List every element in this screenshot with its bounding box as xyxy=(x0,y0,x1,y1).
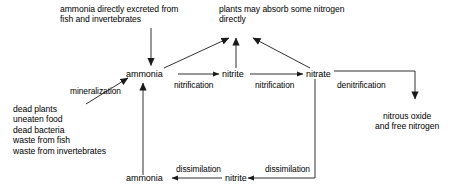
edge-label-denitrification: denitrification xyxy=(337,80,386,90)
diagram-connectors xyxy=(0,0,459,196)
node-nitrous-oxide: nitrous oxide and free nitrogen xyxy=(375,111,439,132)
edge-label-nitrification-1: nitrification xyxy=(174,80,213,90)
node-nitrite-main: nitrite xyxy=(222,69,244,79)
node-excreted-ammonia: ammonia directly excreted from fish and … xyxy=(60,4,178,25)
node-plants-absorb: plants may absorb some nitrogen directly xyxy=(219,4,345,25)
node-nitrate-main: nitrate xyxy=(306,69,331,79)
edge-label-nitrification-2: nitrification xyxy=(255,80,294,90)
edge-ammonia-to-plants xyxy=(164,38,229,68)
edge-label-dissimilation-2: dissimilation xyxy=(265,164,310,174)
node-organic-sources: dead plants uneaten food dead bacteria w… xyxy=(13,104,106,156)
node-nitrite-bottom: nitrite xyxy=(225,173,247,183)
edge-nitrate-to-plants xyxy=(253,38,310,68)
node-ammonia-main: ammonia xyxy=(126,69,163,79)
edge-label-mineralization: mineralization xyxy=(70,86,121,96)
edge-label-dissimilation-1: dissimilation xyxy=(176,164,221,174)
node-ammonia-bottom: ammonia xyxy=(126,173,163,183)
nitrogen-cycle-diagram: ammonia directly excreted from fish and … xyxy=(0,0,459,196)
